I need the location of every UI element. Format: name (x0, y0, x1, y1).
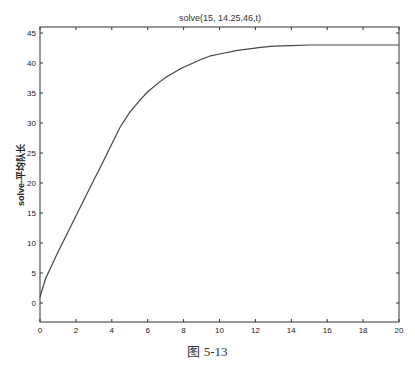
x-tick-label: 12 (251, 326, 260, 335)
x-tick-label: 0 (38, 326, 43, 335)
figure-caption: 图 5-13 (0, 341, 415, 360)
x-tick-label: 18 (359, 326, 368, 335)
y-tick-label: 10 (27, 239, 36, 248)
chart-title: solve(15, 14.25,46,t) (179, 13, 261, 23)
x-tick-label: 8 (181, 326, 186, 335)
y-tick-label: 20 (27, 179, 36, 188)
y-tick-label: 45 (27, 29, 36, 38)
y-tick-label: 5 (32, 269, 37, 278)
y-tick-label: 15 (27, 209, 36, 218)
plot-area (40, 27, 399, 322)
x-tick-label: 14 (287, 326, 296, 335)
x-tick-label: 4 (110, 326, 115, 335)
y-tick-label: 0 (32, 299, 37, 308)
line-chart: solve(15, 14.25,46,t) solve-平均队长 0246810… (0, 0, 415, 369)
x-tick-label: 2 (74, 326, 79, 335)
x-tick-label: 20 (395, 326, 404, 335)
x-tick-label: 10 (215, 326, 224, 335)
y-tick-label: 40 (27, 59, 36, 68)
y-axis-label: solve-平均队长 (15, 143, 26, 206)
y-tick-label: 30 (27, 119, 36, 128)
y-tick-label: 35 (27, 89, 36, 98)
x-tick-label: 6 (145, 326, 150, 335)
y-tick-label: 25 (27, 149, 36, 158)
x-tick-label: 16 (323, 326, 332, 335)
